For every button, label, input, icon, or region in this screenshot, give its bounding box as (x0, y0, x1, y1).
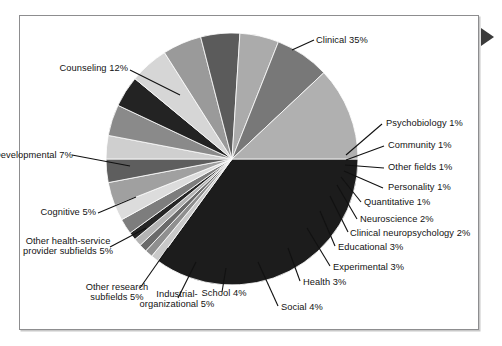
slice-label-personality: Personality 1% (388, 182, 451, 192)
slice-label-quantitative: Quantitative 1% (364, 197, 430, 207)
slice-label-experimental: Experimental 3% (333, 262, 404, 272)
slice-label-cognitive: Cognitive 5% (18, 207, 96, 217)
slice-label-other-health-service-provider-subfields: Other health-service provider subfields … (22, 236, 114, 257)
leader-clinical (292, 40, 314, 50)
slice-label-neuroscience: Neuroscience 2% (360, 214, 434, 224)
slice-label-developmental: Developmental 7% (0, 150, 70, 160)
slice-label-educational: Educational 3% (338, 242, 403, 252)
slice-label-other-research-subfields: Other research subfields 5% (74, 282, 160, 303)
slice-label-social: Social 4% (281, 302, 323, 312)
slice-label-clinical-neuropsychology: Clinical neuropsychology 2% (350, 228, 470, 238)
slice-label-counseling: Counseling 12% (52, 63, 128, 73)
pie-slices-group (106, 33, 358, 285)
slice-label-other-fields: Other fields 1% (388, 162, 452, 172)
slice-label-clinical: Clinical 35% (316, 35, 368, 45)
figure-container: Clinical 35% Psychobiology 1% Community … (0, 0, 502, 346)
slice-label-health: Health 3% (303, 277, 346, 287)
slice-label-psychobiology: Psychobiology 1% (386, 118, 463, 128)
slice-label-community: Community 1% (388, 140, 452, 150)
